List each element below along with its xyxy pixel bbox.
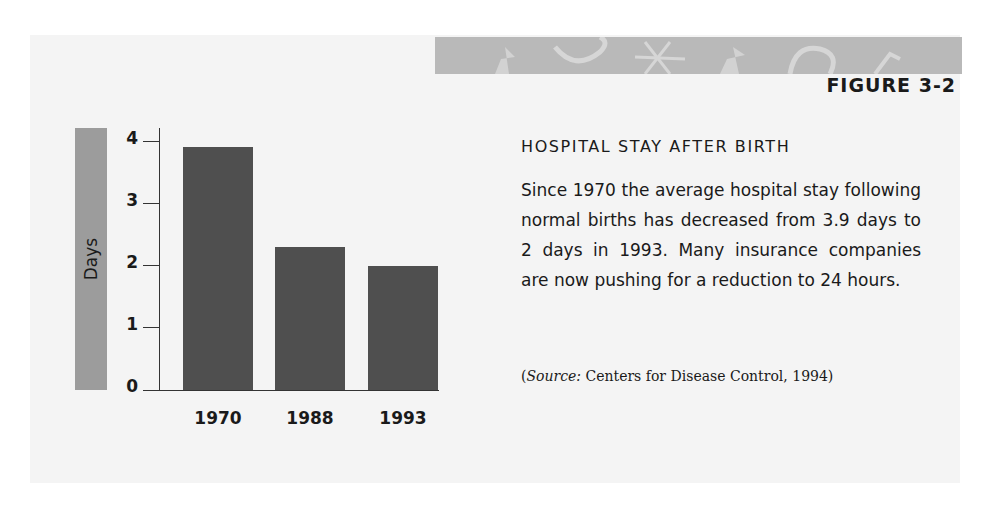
- bar-1970: [183, 147, 253, 390]
- y-tick: [143, 141, 159, 142]
- header-band: [435, 37, 962, 74]
- y-tick: [143, 265, 159, 266]
- figure-description: Since 1970 the average hospital stay fol…: [521, 175, 921, 295]
- source-text: Centers for Disease Control, 1994): [581, 368, 833, 384]
- y-tick-label: 0: [118, 376, 138, 396]
- y-tick: [143, 203, 159, 204]
- y-axis-label: Days: [81, 238, 101, 280]
- y-tick-label: 3: [118, 190, 138, 210]
- y-tick: [143, 327, 159, 328]
- y-axis-line: [159, 128, 160, 391]
- figure-title: HOSPITAL STAY AFTER BIRTH: [521, 137, 790, 156]
- bar-1988: [275, 247, 345, 390]
- y-tick-label: 1: [118, 314, 138, 334]
- x-tick-label: 1970: [183, 408, 253, 428]
- decorative-stars-icon: [435, 37, 962, 74]
- figure-source: (Source: Centers for Disease Control, 19…: [521, 368, 833, 384]
- y-tick-label: 4: [118, 128, 138, 148]
- bar-1993: [368, 266, 438, 391]
- y-tick-label: 2: [118, 252, 138, 272]
- x-axis-line: [143, 390, 439, 391]
- source-prefix: Source:: [526, 368, 581, 384]
- x-tick-label: 1988: [275, 408, 345, 428]
- figure-number: FIGURE 3-2: [826, 74, 956, 96]
- x-tick-label: 1993: [368, 408, 438, 428]
